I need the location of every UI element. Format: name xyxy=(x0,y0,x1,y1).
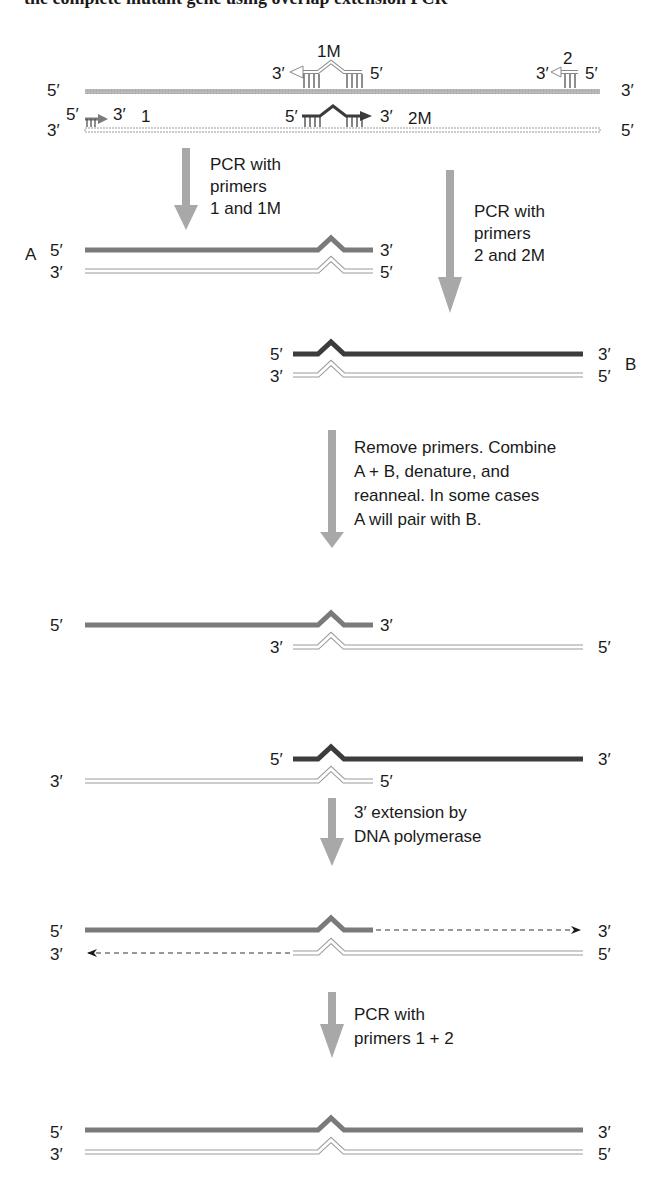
step-arrow-shaft xyxy=(446,170,454,280)
final-bottom-right: 5′ xyxy=(598,1145,611,1164)
step-arrow-head xyxy=(438,277,462,313)
primer-2M-name: 2M xyxy=(408,109,432,128)
extended-bottom-left: 3′ xyxy=(50,945,63,964)
final-bottom-left: 3′ xyxy=(50,1145,63,1164)
primer-1-name: 1 xyxy=(141,107,150,126)
product-B-label: B xyxy=(625,355,636,374)
step-text-line: PCR with xyxy=(474,202,545,221)
final-top-right: 3′ xyxy=(598,1123,611,1142)
step-text-line: 1 and 1M xyxy=(210,199,281,218)
step-text-line: reanneal. In some cases xyxy=(354,486,539,505)
product-A-bottom-left: 3′ xyxy=(50,263,63,282)
primer-1: 5′ 3′ 1 xyxy=(66,105,150,127)
template-top-strand xyxy=(85,89,600,94)
primer-1M-name: 1M xyxy=(317,42,341,61)
primer-1M-5prime: 5′ xyxy=(370,64,383,83)
primer-2M: 5′ 3′ 2M xyxy=(285,106,432,128)
product-A: A 5′ 3′ 3′ 5′ xyxy=(25,238,393,282)
step-arrow-shaft xyxy=(182,148,190,208)
product-A-top-strand xyxy=(85,238,373,250)
hybrid2-top-strand xyxy=(293,747,583,759)
step-arrow-head xyxy=(320,838,344,866)
extended-top-strand xyxy=(85,918,373,930)
step-text-line: primers xyxy=(474,224,531,243)
step-text-line: 2 and 2M xyxy=(474,246,545,265)
step-text-line: DNA polymerase xyxy=(354,827,482,846)
product-B-top-right: 3′ xyxy=(598,345,611,364)
step-arrow-shaft xyxy=(328,992,336,1026)
step-arrow-head xyxy=(320,1024,344,1058)
product-B: 5′ 3′ B 3′ 5′ xyxy=(270,342,636,386)
step-text-line: Remove primers. Combine xyxy=(354,438,556,457)
template-top-right-label: 3′ xyxy=(621,81,634,100)
primer-2M-3prime: 3′ xyxy=(380,107,393,126)
product-B-top-left: 5′ xyxy=(270,345,283,364)
step-text-line: primers xyxy=(210,177,267,196)
hybrid1-bottom-right: 5′ xyxy=(598,638,611,657)
primer-1M: 1M 3′ 5′ xyxy=(272,42,383,88)
primer-2M-5prime: 5′ xyxy=(285,107,298,126)
final-top-left: 5′ xyxy=(50,1123,63,1142)
step-arrow-shaft xyxy=(328,798,336,840)
step-pcr-2-2m: PCR with primers 2 and 2M xyxy=(438,170,545,313)
primer-1-3prime: 3′ xyxy=(113,105,126,124)
step-arrow-head xyxy=(320,532,344,548)
step-arrow-shaft xyxy=(328,430,336,540)
hybrid2-bottom-left: 3′ xyxy=(50,772,63,791)
final-top-strand xyxy=(85,1118,583,1130)
template-duplex: 5′ 3′ 3′ 5′ 5′ 3′ 1 1M 3′ 5′ 5′ xyxy=(47,42,634,140)
hybrid1-bottom-left: 3′ xyxy=(270,638,283,657)
product-A-top-right: 3′ xyxy=(380,241,393,260)
hybrid1-top-right: 3′ xyxy=(380,616,393,635)
step-text-line: PCR with xyxy=(354,1005,425,1024)
extended-top-left: 5′ xyxy=(50,922,63,941)
hybrid-duplex-1: 5′ 3′ 3′ 5′ xyxy=(50,613,611,657)
primer-1-5prime: 5′ xyxy=(66,105,79,124)
step-pcr-1-1m: PCR with primers 1 and 1M xyxy=(174,148,281,230)
template-bottom-left-label: 3′ xyxy=(47,121,60,140)
primer-2: 2 3′ 5′ xyxy=(536,49,598,88)
primer-1M-3prime: 3′ xyxy=(272,64,285,83)
step-combine: Remove primers. Combine A + B, denature,… xyxy=(320,430,556,548)
step-text-line: A + B, denature, and xyxy=(354,462,509,481)
hybrid2-top-right: 3′ xyxy=(598,750,611,769)
overlap-extension-pcr-diagram: the complete mutant gene using overlap e… xyxy=(0,0,665,1184)
template-bottom-strand xyxy=(85,128,600,132)
product-B-top-strand xyxy=(293,342,583,354)
step-text-line: PCR with xyxy=(210,155,281,174)
primer-2-3prime: 3′ xyxy=(536,64,549,83)
product-A-top-left: 5′ xyxy=(50,241,63,260)
step-extension: 3′ extension by DNA polymerase xyxy=(320,798,482,866)
header-text-cropped: the complete mutant gene using overlap e… xyxy=(24,0,448,8)
primer-2-name: 2 xyxy=(563,49,572,68)
hybrid1-top-strand xyxy=(85,613,373,625)
final-mutant-duplex: 5′ 3′ 3′ 5′ xyxy=(50,1118,611,1164)
step-arrow-head xyxy=(174,205,198,230)
hybrid2-top-left: 5′ xyxy=(270,750,283,769)
product-A-label: A xyxy=(25,245,37,264)
template-top-left-label: 5′ xyxy=(47,81,60,100)
hybrid-duplex-2: 5′ 3′ 3′ 5′ xyxy=(50,747,611,791)
primer-2-5prime: 5′ xyxy=(585,64,598,83)
extended-bottom-right: 5′ xyxy=(598,945,611,964)
template-bottom-right-label: 5′ xyxy=(621,121,634,140)
step-pcr-1-2: PCR with primers 1 + 2 xyxy=(320,992,454,1058)
step-text-line: A will pair with B. xyxy=(354,510,482,529)
product-B-bottom-left: 3′ xyxy=(270,367,283,386)
hybrid2-bottom-right: 5′ xyxy=(380,772,393,791)
extended-top-right: 3′ xyxy=(598,922,611,941)
extended-duplex: 5′ 3′ 3′ 5′ xyxy=(50,918,611,964)
product-A-bottom-right: 5′ xyxy=(380,263,393,282)
hybrid1-top-left: 5′ xyxy=(50,616,63,635)
product-B-bottom-right: 5′ xyxy=(598,367,611,386)
step-text-line: 3′ extension by xyxy=(354,803,467,822)
step-text-line: primers 1 + 2 xyxy=(354,1029,454,1048)
